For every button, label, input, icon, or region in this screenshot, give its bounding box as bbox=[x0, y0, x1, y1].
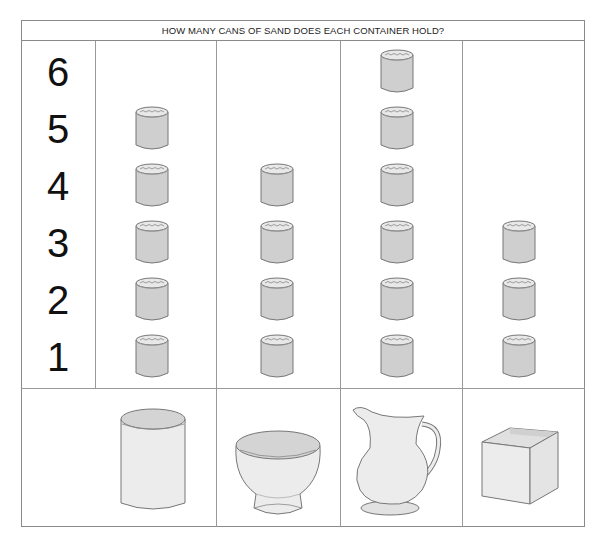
y-axis-number: 6 bbox=[21, 44, 95, 101]
chart-baseline bbox=[21, 388, 585, 389]
pitcher-icon bbox=[350, 404, 445, 522]
chart-title: HOW MANY CANS OF SAND DOES EACH CONTAINE… bbox=[21, 20, 585, 41]
bowl-icon bbox=[234, 428, 322, 520]
sand-can-icon bbox=[501, 277, 537, 322]
sand-can-icon bbox=[259, 163, 295, 208]
y-axis-number: 2 bbox=[21, 272, 95, 329]
sand-can-icon bbox=[501, 334, 537, 379]
sand-can-icon bbox=[134, 334, 170, 379]
y-axis-number: 4 bbox=[21, 158, 95, 215]
sand-can-icon bbox=[134, 277, 170, 322]
y-axis-number: 5 bbox=[21, 101, 95, 158]
number-column-divider bbox=[95, 41, 96, 388]
sand-can-icon bbox=[379, 49, 415, 94]
sand-can-icon bbox=[134, 106, 170, 151]
sand-can-icon bbox=[259, 220, 295, 265]
sand-can-icon bbox=[259, 334, 295, 379]
sand-can-icon bbox=[379, 163, 415, 208]
sand-can-icon bbox=[259, 277, 295, 322]
sand-can-icon bbox=[501, 220, 537, 265]
sand-can-icon bbox=[134, 220, 170, 265]
box-icon bbox=[480, 424, 562, 508]
column-divider-2 bbox=[340, 41, 341, 527]
y-axis-number: 1 bbox=[21, 329, 95, 386]
sand-can-icon bbox=[379, 277, 415, 322]
sand-can-icon bbox=[134, 163, 170, 208]
y-axis-number: 3 bbox=[21, 215, 95, 272]
cylinder-jar-icon bbox=[118, 405, 188, 517]
sand-can-icon bbox=[379, 334, 415, 379]
column-divider-1 bbox=[216, 41, 217, 527]
sand-can-icon bbox=[379, 220, 415, 265]
sand-can-icon bbox=[379, 106, 415, 151]
column-divider-3 bbox=[462, 41, 463, 527]
